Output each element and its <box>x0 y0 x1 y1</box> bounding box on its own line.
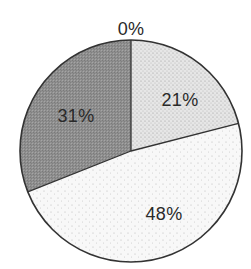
slice-label-21: 21% <box>162 91 199 109</box>
slice-label-48: 48% <box>146 205 183 223</box>
slice-label-31: 31% <box>58 107 95 125</box>
slice-label-0: 0% <box>118 20 145 38</box>
pie-chart: 0% 21% 48% 31% <box>0 0 251 269</box>
pie-slices <box>20 40 242 262</box>
pie-chart-graphic <box>0 0 251 269</box>
